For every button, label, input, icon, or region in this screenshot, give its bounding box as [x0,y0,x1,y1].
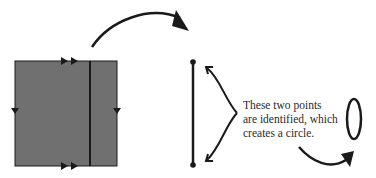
caption-line-3: creates a circle. [243,126,353,140]
diagram-canvas [0,0,376,178]
square-fill [15,61,117,166]
caption: These two points are identified, which c… [243,98,353,140]
caption-line-2: are identified, which [243,112,353,126]
segment-top-endpoint [190,59,196,65]
square [11,57,121,170]
curved-arrow-top-icon [92,10,189,47]
segment-bottom-endpoint [190,162,196,168]
line-segment [190,59,196,168]
caption-line-1: These two points [243,98,353,112]
endpoint-brace-arrows-icon [206,67,237,161]
curved-arrow-bottom-icon [299,147,354,167]
